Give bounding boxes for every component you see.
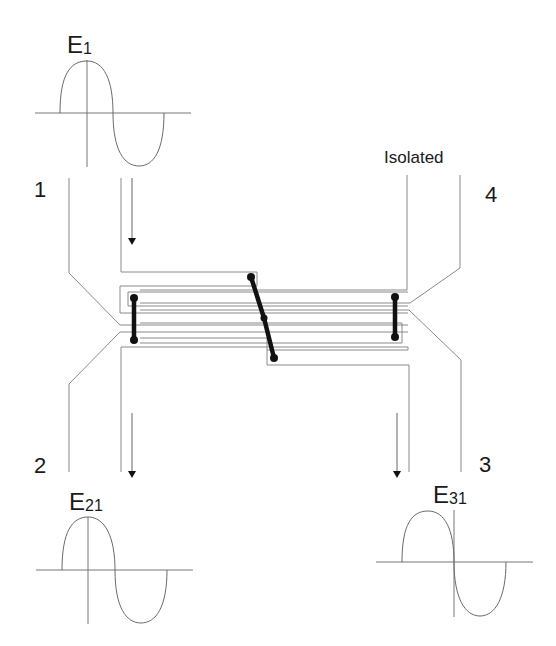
- bridge-left: [130, 294, 138, 344]
- port-label-3: 3: [479, 454, 491, 476]
- port-4-trace: [140, 175, 460, 303]
- waveform-e21: [36, 517, 193, 624]
- signal-e21-sub: 21: [85, 497, 103, 514]
- signal-e31-sub: 31: [449, 490, 467, 507]
- signal-e21-base: E: [69, 488, 85, 515]
- signal-e31-base: E: [433, 481, 449, 508]
- signal-e1-sub: 1: [83, 40, 92, 57]
- port-label-2: 2: [34, 455, 46, 477]
- signal-label-e1: E1: [67, 33, 92, 57]
- signal-label-e21: E21: [69, 490, 103, 514]
- bridge-right: [391, 293, 399, 341]
- arrow-port-3-out: [393, 413, 401, 478]
- waveform-e1: [35, 60, 191, 167]
- arrow-port-2-out: [128, 413, 136, 478]
- signal-e1-base: E: [67, 31, 83, 58]
- port-label-4: 4: [485, 184, 497, 206]
- lower-coupled-line: [140, 310, 461, 472]
- port-2-trace: [69, 332, 408, 472]
- bridge-center: [247, 273, 278, 362]
- signal-label-e31: E31: [433, 483, 467, 507]
- upper-coupled-line: [128, 292, 408, 306]
- port-label-1: 1: [34, 179, 46, 201]
- waveform-e31: [376, 510, 533, 617]
- arrow-port-1-in: [128, 178, 136, 245]
- coupler-diagram: [0, 0, 556, 646]
- isolated-label: Isolated: [384, 149, 444, 166]
